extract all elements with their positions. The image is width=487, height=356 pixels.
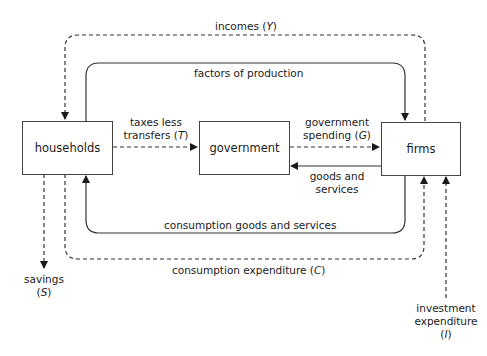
investment-label: investment expenditure (I) bbox=[413, 302, 479, 341]
government-node: government bbox=[199, 121, 290, 175]
consumption-goods-label: consumption goods and services bbox=[164, 219, 336, 232]
firms-node: firms bbox=[381, 122, 461, 176]
factors-label: factors of production bbox=[194, 67, 303, 80]
government-label: government bbox=[209, 141, 279, 155]
incomes-label: incomes (Y) bbox=[215, 20, 277, 33]
households-label: households bbox=[35, 141, 101, 155]
savings-label: savings (S) bbox=[22, 273, 66, 299]
gov-goods-label: goods and services bbox=[303, 170, 371, 196]
taxes-label: taxes less transfers (T) bbox=[122, 116, 190, 142]
firms-label: firms bbox=[407, 142, 436, 156]
households-node: households bbox=[22, 121, 113, 175]
consumption-expenditure-label: consumption expenditure (C) bbox=[172, 264, 325, 277]
gov-spending-label: government spending (G) bbox=[301, 116, 373, 142]
